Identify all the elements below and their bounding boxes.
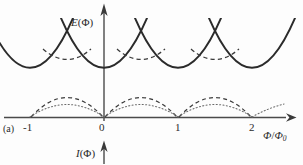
y-axis-label-symbol: E: [71, 16, 78, 28]
x-axis-label-denominator: Φ: [274, 129, 282, 141]
lower-dash-arc-three-half: [179, 98, 251, 118]
second-panel-label-argument: (Φ): [80, 147, 95, 159]
parabola-n-minus-1: [0, 18, 73, 68]
second-panel-y-axis-label: I(Φ): [76, 148, 95, 159]
x-axis-label-subscript: 0: [283, 134, 287, 143]
axis-group: [4, 4, 297, 165]
x-axis-label: Φ/Φ0: [263, 130, 287, 142]
x-tick-label-0: 0: [99, 122, 105, 133]
solid-parabola-bands: [0, 18, 295, 68]
dotted-arc-right-tail: [252, 104, 284, 117]
lower-dashed-branches: [31, 98, 251, 118]
dotted-arc-three-half: [178, 105, 252, 118]
x-tick-label-2: 2: [249, 122, 255, 133]
parabola-n-1: [135, 18, 221, 68]
x-tick-label-1: 1: [175, 122, 181, 133]
panel-label-a: (a): [3, 124, 14, 134]
upper-dashed-branches: [43, 49, 239, 60]
dotted-lowest-band: [30, 104, 284, 117]
lower-dash-arc-minus-half: [31, 98, 103, 118]
parabola-n-2: [209, 18, 295, 68]
x-tick-label-minus-1: -1: [23, 122, 32, 133]
dotted-arc-minus-half: [30, 105, 104, 118]
y-axis-label-argument: (Φ): [78, 16, 93, 28]
dotted-arc-plus-half: [104, 105, 178, 118]
y-axis-label: E(Φ): [71, 17, 93, 28]
lower-dash-arc-plus-half: [105, 98, 177, 118]
x-axis-arrowhead: [286, 113, 297, 122]
energy-band-figure: [0, 0, 303, 164]
